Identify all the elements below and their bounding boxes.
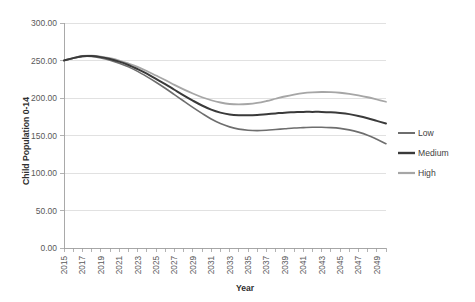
x-tick-label: 2043 <box>318 256 327 275</box>
x-tick-label: 2023 <box>134 256 143 275</box>
x-tick-label: 2015 <box>60 256 69 275</box>
x-tick-label: 2021 <box>115 256 124 275</box>
legend-label-high: High <box>418 168 436 178</box>
y-tick-label: 200.00 <box>31 93 57 103</box>
x-tick-label: 2045 <box>336 256 345 275</box>
y-tick-label: 150.00 <box>31 131 57 141</box>
line-chart: 0.0050.00100.00150.00200.00250.00300.00 … <box>0 0 475 302</box>
x-tick-label: 2039 <box>281 256 290 275</box>
x-tick-label: 2035 <box>244 256 253 275</box>
x-tick-label: 2033 <box>226 256 235 275</box>
y-tick-label: 50.00 <box>36 206 58 216</box>
legend-label-low: Low <box>418 128 435 138</box>
x-tick-label: 2029 <box>189 256 198 275</box>
y-tick-label: 0.00 <box>40 243 57 253</box>
x-tick-label: 2037 <box>262 256 271 275</box>
chart-container: 0.0050.00100.00150.00200.00250.00300.00 … <box>0 0 475 302</box>
x-tick-label: 2019 <box>97 256 106 275</box>
x-tick-label: 2049 <box>373 256 382 275</box>
x-axis-title: Year <box>236 283 255 293</box>
x-tick-label: 2025 <box>152 256 161 275</box>
y-tick-label: 100.00 <box>31 168 57 178</box>
x-tick-label: 2017 <box>78 256 87 275</box>
x-tick-label: 2047 <box>354 256 363 275</box>
legend-label-medium: Medium <box>418 148 449 158</box>
x-tick-label: 2027 <box>170 256 179 275</box>
x-tick-label: 2041 <box>299 256 308 275</box>
y-tick-label: 300.00 <box>31 18 57 28</box>
chart-background <box>0 0 475 302</box>
x-tick-label: 2031 <box>207 256 216 275</box>
y-tick-label: 250.00 <box>31 56 57 66</box>
y-axis-title: Child Population 0-14 <box>21 97 31 185</box>
